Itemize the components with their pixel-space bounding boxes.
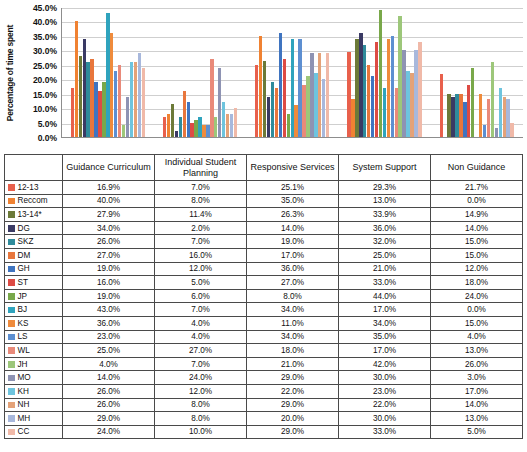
bar xyxy=(499,88,502,137)
bar xyxy=(410,73,413,137)
series-legend-item: WL xyxy=(5,344,63,358)
table-cell: 26.0% xyxy=(63,398,155,412)
series-legend-item: KS xyxy=(5,316,63,330)
table-cell: 13.0% xyxy=(431,412,523,426)
series-legend-item: BJ xyxy=(5,303,63,317)
bar xyxy=(234,108,237,137)
table-body: 12-1316.9%7.0%25.1%29.3%21.7%Reccom40.0%… xyxy=(5,181,523,439)
table-cell: 30.0% xyxy=(339,412,431,426)
table-cell: 36.0% xyxy=(247,262,339,276)
series-label: GH xyxy=(18,264,30,273)
table-cell: 15.0% xyxy=(431,248,523,262)
table-row: KS36.0%4.0%11.0%34.0%15.0% xyxy=(5,316,523,330)
series-label: Reccom xyxy=(18,196,48,205)
series-label: WL xyxy=(18,346,30,355)
bar xyxy=(83,39,86,137)
table-row: 12-1316.9%7.0%25.1%29.3%21.7% xyxy=(5,181,523,195)
bar xyxy=(263,61,266,137)
legend-swatch-icon xyxy=(8,266,15,273)
bar-group xyxy=(154,8,246,137)
series-label: MO xyxy=(18,373,31,382)
bar xyxy=(194,120,197,137)
table-cell: 22.0% xyxy=(247,384,339,398)
table-cell: 13.0% xyxy=(339,194,431,208)
bar-group xyxy=(246,8,338,137)
table-cell: 32.0% xyxy=(339,235,431,249)
table-row: GH19.0%12.0%36.0%21.0%12.0% xyxy=(5,262,523,276)
bar xyxy=(267,97,270,137)
table-cell: 0.0% xyxy=(431,194,523,208)
table-cell: 29.0% xyxy=(247,398,339,412)
table-cell: 5.0% xyxy=(431,425,523,439)
table-cell: 12.0% xyxy=(155,384,247,398)
bar xyxy=(306,76,309,137)
series-legend-item: MO xyxy=(5,371,63,385)
series-label: JH xyxy=(18,360,28,369)
series-label: BJ xyxy=(18,305,28,314)
table-header-row: Guidance CurriculumIndividual Student Pl… xyxy=(5,155,523,181)
series-legend-item: ST xyxy=(5,276,63,290)
table-cell: 30.0% xyxy=(339,371,431,385)
table-cell: 29.0% xyxy=(247,425,339,439)
table-cell: 3.0% xyxy=(431,371,523,385)
chart-page: Percentage of time spent 0.0%5.0%10.0%15… xyxy=(0,0,527,452)
series-legend-item: NH xyxy=(5,398,63,412)
series-legend-item: KH xyxy=(5,384,63,398)
table-cell: 11.4% xyxy=(155,208,247,222)
bar xyxy=(447,94,450,137)
series-legend-item: JP xyxy=(5,289,63,303)
table-cell: 24.0% xyxy=(63,425,155,439)
bar xyxy=(183,91,186,137)
bar xyxy=(318,53,321,137)
legend-swatch-icon xyxy=(8,184,15,191)
table-cell: 5.0% xyxy=(155,276,247,290)
series-legend-item: 12-13 xyxy=(5,181,63,195)
table-cell: 15.0% xyxy=(431,235,523,249)
table-cell: 16.9% xyxy=(63,181,155,195)
table-cell: 14.0% xyxy=(431,221,523,235)
y-axis-tick-label: 40.0% xyxy=(33,17,57,27)
table-cell: 6.0% xyxy=(155,289,247,303)
table-cell: 34.0% xyxy=(247,330,339,344)
table-header-cell: Non Guidance xyxy=(431,155,523,181)
table-row: NH26.0%8.0%29.0%22.0%14.0% xyxy=(5,398,523,412)
bar xyxy=(198,117,201,137)
table-cell: 17.0% xyxy=(247,248,339,262)
bar xyxy=(259,36,262,137)
bar xyxy=(171,104,174,137)
legend-swatch-icon xyxy=(8,307,15,314)
table-cell: 26.0% xyxy=(63,384,155,398)
table-cell: 8.0% xyxy=(155,412,247,426)
table-cell: 29.3% xyxy=(339,181,431,195)
table-cell: 33.9% xyxy=(339,208,431,222)
series-legend-item: GH xyxy=(5,262,63,276)
bar xyxy=(375,42,378,137)
bar xyxy=(255,65,258,138)
series-label: NH xyxy=(18,400,30,409)
bar-group xyxy=(431,8,523,137)
table-cell: 21.0% xyxy=(247,357,339,371)
legend-swatch-icon xyxy=(8,361,15,368)
table-cell: 18.0% xyxy=(431,276,523,290)
y-axis-tick-label: 30.0% xyxy=(33,46,57,56)
bar xyxy=(179,117,182,137)
series-label: KS xyxy=(18,319,29,328)
table-cell: 14.0% xyxy=(63,371,155,385)
series-label: MH xyxy=(18,414,31,423)
y-axis-tick-label: 20.0% xyxy=(33,75,57,85)
legend-swatch-icon xyxy=(8,320,15,327)
table-row: 13-14*27.9%11.4%26.3%33.9%14.9% xyxy=(5,208,523,222)
series-label: LS xyxy=(18,332,28,341)
bar xyxy=(463,102,466,137)
legend-swatch-icon xyxy=(8,375,15,382)
legend-swatch-icon xyxy=(8,415,15,422)
table-cell: 27.9% xyxy=(63,208,155,222)
table-cell: 35.0% xyxy=(339,330,431,344)
bar xyxy=(483,125,486,137)
bar xyxy=(363,45,366,137)
table-cell: 4.0% xyxy=(431,330,523,344)
table-cell: 13.0% xyxy=(431,344,523,358)
bar xyxy=(79,56,82,137)
bar xyxy=(75,21,78,137)
table-cell: 26.0% xyxy=(431,357,523,371)
